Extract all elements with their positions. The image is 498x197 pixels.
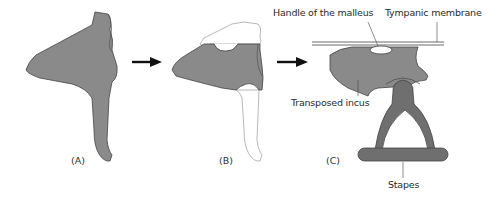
arrow-a-to-b bbox=[132, 57, 162, 67]
incus-sculpted bbox=[172, 22, 263, 161]
label-transposed-incus: Transposed incus bbox=[291, 97, 369, 108]
panel-label-a: (A) bbox=[71, 155, 85, 166]
stapes-footplate bbox=[358, 148, 448, 161]
label-handle-of-malleus: Handle of the malleus bbox=[273, 7, 373, 18]
panel-label-b: (B) bbox=[219, 155, 233, 166]
arrow-b-to-c bbox=[277, 57, 308, 67]
malleus-handle bbox=[370, 46, 392, 54]
ossicle-diagram bbox=[0, 0, 498, 197]
label-stapes: Stapes bbox=[388, 179, 419, 190]
label-tympanic-membrane: Tympanic membrane bbox=[385, 7, 482, 18]
panel-label-c: (C) bbox=[326, 155, 340, 166]
incus-intact bbox=[26, 12, 117, 161]
